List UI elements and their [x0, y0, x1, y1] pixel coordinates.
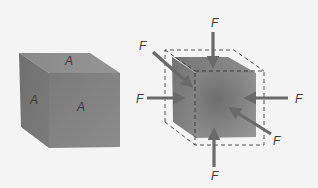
label-area-top: A: [64, 54, 73, 68]
bulk-modulus-diagram: A A A F F F F F F: [0, 0, 318, 188]
label-area-side: A: [29, 93, 38, 107]
label-force-right: F: [295, 92, 303, 106]
label-force-left: F: [136, 92, 144, 106]
compressed-cube-front-face: [196, 73, 256, 138]
label-force-bottom: F: [211, 169, 219, 183]
label-force-top: F: [211, 16, 219, 30]
left-cube: A A A: [19, 53, 120, 148]
label-force-front-right: F: [273, 134, 281, 148]
right-cube: F F F F F F: [136, 16, 303, 183]
label-force-back-left: F: [139, 39, 147, 53]
label-area-front: A: [76, 100, 85, 114]
